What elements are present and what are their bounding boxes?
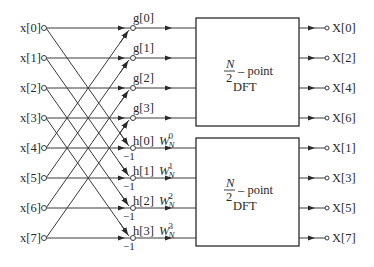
output-label: X[4]: [332, 81, 356, 95]
input-label: x[4]: [20, 141, 41, 155]
minus-one-label: −1: [123, 210, 135, 222]
g-label: g[1]: [133, 41, 154, 55]
g-label: g[3]: [133, 101, 154, 115]
block-suffix: – point: [237, 64, 274, 78]
block-denominator: 2: [226, 71, 232, 85]
h-label: h[1]: [133, 164, 154, 178]
block-denominator: 2: [226, 190, 232, 204]
input-label: x[0]: [20, 21, 41, 35]
input-label: x[6]: [20, 201, 41, 215]
g-label: g[0]: [133, 11, 154, 25]
block-label: DFT: [233, 199, 257, 213]
h-label: h[3]: [133, 224, 154, 238]
output-label: X[5]: [332, 201, 356, 215]
stage-to-dft-lines: [136, 26, 196, 241]
input-label: x[1]: [20, 51, 41, 65]
block-label: DFT: [233, 80, 257, 94]
minus-one-label: −1: [123, 150, 135, 162]
input-label: x[2]: [20, 81, 41, 95]
output-label: X[2]: [332, 51, 356, 65]
input-nodes: [42, 26, 47, 241]
twiddle-factor: WN3: [159, 221, 175, 240]
input-labels: x[0] x[1] x[2] x[3] x[4] x[5] x[6] x[7]: [20, 21, 41, 245]
output-labels: X[0] X[2] X[4] X[6] X[1] X[3] X[5] X[7]: [332, 21, 356, 245]
output-label: X[7]: [332, 231, 356, 245]
dft-block-odd: N 2 – point DFT: [196, 138, 299, 246]
output-lines: [299, 26, 325, 241]
input-label: x[5]: [20, 171, 41, 185]
horizontal-input-lines: [47, 26, 130, 241]
twiddle-factor: WN0: [159, 131, 175, 150]
minus-one-label: −1: [123, 240, 135, 252]
block-numerator: N: [225, 57, 235, 71]
dft-block-even: N 2 – point DFT: [196, 18, 299, 126]
g-labels: g[0] g[1] g[2] g[3]: [133, 11, 154, 115]
twiddle-factor: WN2: [159, 191, 175, 210]
input-label: x[7]: [20, 231, 41, 245]
twiddle-factor: WN1: [159, 161, 175, 180]
g-label: g[2]: [133, 71, 154, 85]
output-label: X[1]: [332, 141, 356, 155]
output-label: X[3]: [332, 171, 356, 185]
butterfly-cross-lines: [46, 28, 129, 238]
block-suffix: – point: [237, 183, 274, 197]
butterfly-output-nodes: [131, 26, 136, 241]
minus-one-label: −1: [123, 180, 135, 192]
output-label: X[6]: [332, 111, 356, 125]
twiddle-factors: WN0 WN1 WN2 WN3: [159, 131, 175, 240]
fft-butterfly-diagram: x[0] x[1] x[2] x[3] x[4] x[5] x[6] x[7] …: [0, 0, 374, 267]
h-label: h[0]: [133, 134, 154, 148]
output-nodes: [325, 26, 329, 240]
block-numerator: N: [225, 176, 235, 190]
input-label: x[3]: [20, 111, 41, 125]
h-label: h[2]: [133, 194, 154, 208]
h-labels: h[0] h[1] h[2] h[3]: [133, 134, 154, 238]
output-label: X[0]: [332, 21, 356, 35]
